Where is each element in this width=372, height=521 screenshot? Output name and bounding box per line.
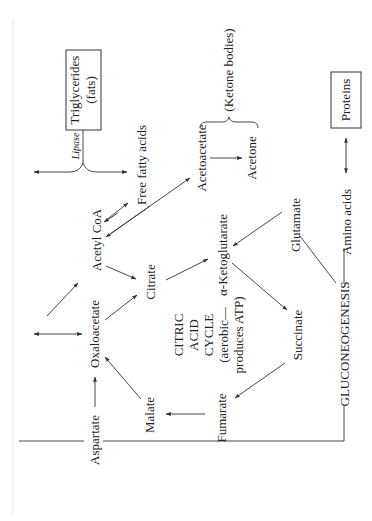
amino-acids-node: Amino acids (339, 189, 354, 255)
succinate-node: Succinate (290, 310, 305, 361)
acetoacetate-node: Acetoacetate (194, 124, 209, 191)
acetone-node: Acetone (244, 136, 259, 180)
oxaloacetate-to-citrate-arrow (105, 295, 137, 320)
ketone-bodies-label: (Ketone bodies) (221, 28, 236, 111)
aspartate-node: Aspartate (87, 415, 102, 465)
cycle-line-1: CITRIC (171, 314, 186, 357)
ffa-acetylcoa-arrow (104, 213, 118, 222)
glutamate-to-akg-arrow (233, 212, 282, 246)
proteins-label: Proteins (338, 79, 353, 122)
proteins-box: Proteins (331, 72, 361, 128)
alpha-ketoglutarate-node: α-Ketoglutarate (215, 214, 230, 296)
acetylcoa-ffa-arrow (105, 203, 128, 221)
metabolic-pathway-diagram: Triglycerides (fats) Lipase Free fatty a… (0, 0, 372, 521)
lipase-fork: Lipase (34, 130, 127, 172)
citric-acid-cycle-label: CITRIC ACID CYCLE (aerobic— produces ATP… (171, 297, 246, 374)
fumarate-node: Fumarate (214, 393, 229, 442)
citrate-node: Citrate (143, 264, 158, 300)
citrate-to-akg-arrow (166, 259, 208, 280)
triglycerides-box: Triglycerides (fats) (66, 50, 101, 130)
oxaloacetate-node: Oxaloacetate (87, 300, 102, 368)
malate-to-oxaloacetate-arrow (105, 357, 141, 399)
acetylcoa-to-citrate-arrow (106, 266, 136, 279)
cycle-line-5: produces ATP) (231, 297, 246, 374)
malate-node: Malate (142, 397, 157, 433)
glutamate-node: Glutamate (288, 198, 303, 252)
triglycerides-label: Triglycerides (67, 56, 82, 125)
cycle-line-3: CYCLE (201, 314, 216, 357)
free-fatty-acids-node: Free fatty acids (134, 125, 149, 205)
acetyl-coa-node: Acetyl CoA (89, 208, 104, 271)
acetoacetate-acetylcoa-arrow (106, 206, 150, 237)
cycle-line-4: (aerobic— (216, 306, 231, 363)
cycle-line-2: ACID (186, 319, 201, 351)
fats-label: (fats) (83, 76, 98, 103)
oxaloacetate-to-acetylcoa-arrow (47, 283, 78, 316)
lipase-label: Lipase (70, 132, 81, 160)
gluconeogenesis-node: GLUCONEOGENESIS (337, 282, 352, 407)
